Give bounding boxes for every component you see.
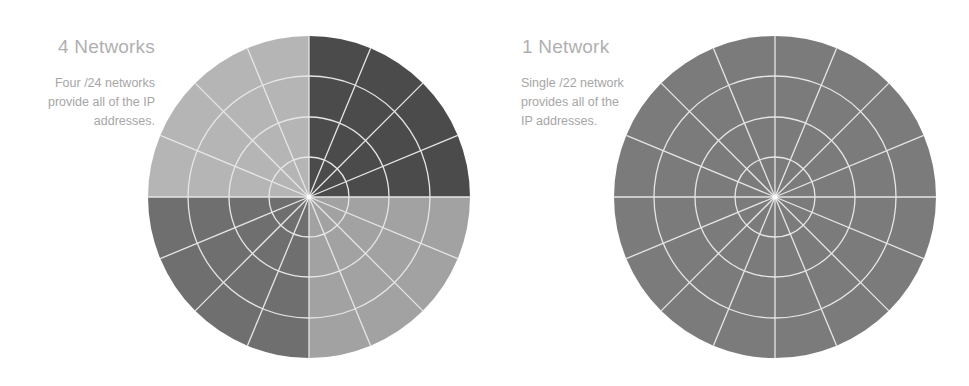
one-network-pie-diagram [0, 0, 969, 386]
center-point [773, 195, 778, 200]
grid-lines [614, 36, 936, 358]
